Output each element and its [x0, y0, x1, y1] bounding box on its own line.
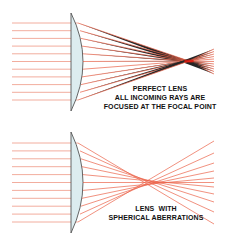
caption-line: SPHERICAL ABERRATIONS — [86, 213, 226, 222]
focal-point — [184, 59, 194, 62]
aberration-lens-caption: LENS WITH SPHERICAL ABERRATIONS — [86, 204, 226, 222]
lens-diagram — [0, 0, 228, 236]
lens-shape — [71, 132, 83, 233]
caption-line: FOCUSED AT THE FOCAL POINT — [92, 102, 228, 111]
caption-line: LENS WITH — [86, 204, 226, 213]
caption-line: PERFECT LENS — [92, 84, 228, 93]
perfect-lens-caption: PERFECT LENS ALL INCOMING RAYS ARE FOCUS… — [92, 84, 228, 111]
lens-shape — [71, 13, 83, 111]
incoming-rays — [12, 23, 78, 100]
incoming-rays — [12, 143, 78, 222]
caption-line: ALL INCOMING RAYS ARE — [92, 93, 228, 102]
